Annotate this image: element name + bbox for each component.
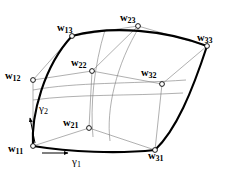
control-point-label-w12: w12 (5, 66, 21, 83)
net-line (89, 128, 155, 150)
surface-patch-figure: w11w12w13w21w22w23w31w32w33γ1γ2 (0, 0, 237, 173)
net-line (33, 71, 92, 80)
label-subscript: 13 (65, 26, 73, 35)
control-point-marker-group (31, 24, 210, 153)
net-line (33, 128, 89, 146)
control-point-label-w11: w11 (8, 139, 23, 156)
control-point-marker-w11 (31, 144, 36, 149)
label-base: w (5, 70, 13, 81)
net-line (92, 26, 138, 71)
control-point-marker-w12 (31, 78, 36, 83)
parameter-label-gamma1: γ1 (72, 152, 81, 169)
label-subscript: 31 (156, 154, 164, 163)
control-point-label-w23: w23 (120, 8, 136, 25)
control-point-label-w21: w21 (63, 113, 79, 130)
label-base: w (57, 22, 65, 33)
control-point-marker-w32 (160, 82, 165, 87)
control-point-label-w22: w22 (71, 53, 87, 70)
label-subscript: 21 (71, 121, 79, 130)
label-base: w (148, 150, 156, 161)
control-point-label-w13: w13 (57, 18, 73, 35)
control-point-marker-w22 (90, 69, 95, 74)
label-subscript: 1 (77, 160, 81, 169)
control-point-label-w33: w33 (197, 28, 213, 45)
label-base: w (197, 32, 205, 43)
control-point-label-w31: w31 (148, 146, 164, 163)
label-base: w (141, 67, 149, 78)
control-point-label-w32: w32 (141, 63, 157, 80)
label-subscript: 32 (149, 71, 157, 80)
label-base: w (120, 12, 128, 23)
label-base: w (8, 143, 16, 154)
net-line (89, 71, 92, 128)
control-point-marker-w21 (87, 126, 92, 131)
parameter-label-gamma2: γ2 (39, 99, 48, 116)
control-net-group (33, 26, 207, 150)
boundary-curve (155, 46, 207, 150)
label-subscript: 33 (205, 36, 213, 45)
boundary-curve-group (33, 30, 207, 152)
label-subscript: 11 (16, 147, 24, 156)
label-subscript: 2 (44, 107, 48, 116)
label-subscript: 12 (13, 74, 21, 83)
label-subscript: 22 (79, 61, 87, 70)
control-point-marker-w23 (136, 24, 141, 29)
label-subscript: 23 (128, 16, 136, 25)
boundary-curve (72, 30, 207, 46)
label-base: w (71, 57, 79, 68)
patch-diagram-svg (0, 0, 237, 173)
isoparametric-curve (109, 26, 140, 141)
label-base: w (63, 117, 71, 128)
boundary-curve (33, 146, 155, 152)
